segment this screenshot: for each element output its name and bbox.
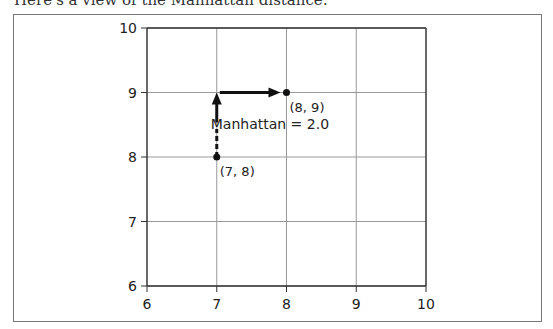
- y-tick-label: 8: [128, 149, 137, 165]
- y-tick-label: 7: [128, 214, 137, 230]
- annotations: Manhattan = 2.0: [211, 116, 329, 132]
- x-tick-label: 10: [417, 296, 435, 312]
- tick-labels: 678910678910: [119, 20, 435, 312]
- distance-annotation: Manhattan = 2.0: [211, 116, 329, 132]
- y-tick-label: 10: [119, 20, 137, 36]
- arrow-head-right-icon: [269, 88, 281, 98]
- point-label: (8, 9): [290, 100, 325, 115]
- y-tick-label: 9: [128, 85, 137, 101]
- x-tick-label: 6: [143, 296, 152, 312]
- y-tick-label: 6: [128, 278, 137, 294]
- x-tick-label: 9: [352, 296, 361, 312]
- arrow-head-up-icon: [212, 93, 222, 105]
- x-tick-label: 7: [212, 296, 221, 312]
- axes: [141, 28, 426, 292]
- data-points: (7, 8)(8, 9): [213, 89, 324, 179]
- manhattan-chart: 678910678910 (7, 8)(8, 9) Manhattan = 2.…: [0, 0, 553, 329]
- data-point: [283, 89, 290, 96]
- data-point: [213, 154, 220, 161]
- x-tick-label: 8: [282, 296, 291, 312]
- grid-lines: [147, 28, 426, 286]
- point-label: (7, 8): [220, 164, 255, 179]
